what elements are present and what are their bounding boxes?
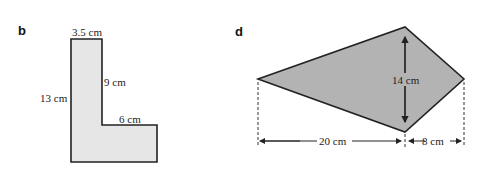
kite-shape: [258, 27, 464, 132]
dim-top-label: 3.5 cm: [72, 26, 102, 38]
part-label-d: d: [235, 24, 243, 39]
diagram-canvas: b 3.5 cm 9 cm 13 cm 6 cm d 14 cm 20 cm 8…: [0, 0, 491, 172]
part-label-b: b: [18, 23, 26, 38]
dim-left-span-label: 20 cm: [319, 135, 347, 147]
l-shape: [71, 39, 157, 162]
dim-inner-vertical-label: 9 cm: [104, 76, 126, 88]
figure-d: d 14 cm 20 cm 8 cm: [235, 24, 464, 148]
diagonal-label: 14 cm: [392, 74, 420, 86]
dim-left-label: 13 cm: [40, 92, 68, 104]
dim-right-span-label: 8 cm: [422, 135, 444, 147]
figure-b: b 3.5 cm 9 cm 13 cm 6 cm: [18, 23, 157, 162]
dim-inner-horizontal-label: 6 cm: [119, 113, 141, 125]
